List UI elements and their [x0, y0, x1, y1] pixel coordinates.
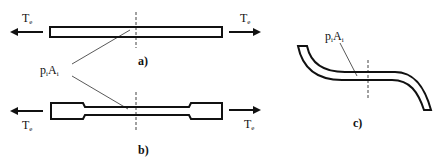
panel-c-curved-bar — [298, 46, 431, 110]
force-label-b-left: Te — [22, 119, 32, 133]
force-label-b-right: Te — [244, 118, 254, 132]
callout-leader-a — [72, 30, 130, 64]
panel-b-specimen — [51, 103, 222, 119]
force-label-a-right: Te — [240, 12, 250, 26]
panel-label-b: b) — [138, 144, 149, 156]
callout-pi-ai: piAi — [40, 64, 59, 78]
callout-leader-b — [72, 76, 128, 109]
panel-label-a: a) — [138, 55, 148, 67]
callout-c-pi-ai: piAi — [325, 30, 344, 44]
force-label-a-left: Te — [22, 12, 32, 26]
diagram-canvas — [0, 0, 448, 158]
panel-label-c: c) — [353, 117, 362, 129]
